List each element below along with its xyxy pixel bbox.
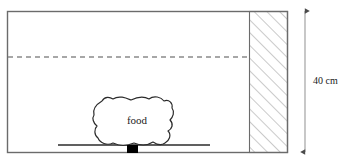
food-label: food <box>127 114 148 126</box>
container-diagram: food 40 cm <box>0 0 342 163</box>
hatched-wall <box>250 12 288 153</box>
diagram-canvas: food 40 cm <box>0 0 342 163</box>
food-blob: food <box>93 97 173 145</box>
height-dimension: 40 cm <box>305 11 338 152</box>
support-block <box>127 145 138 153</box>
dimension-label: 40 cm <box>313 75 338 86</box>
